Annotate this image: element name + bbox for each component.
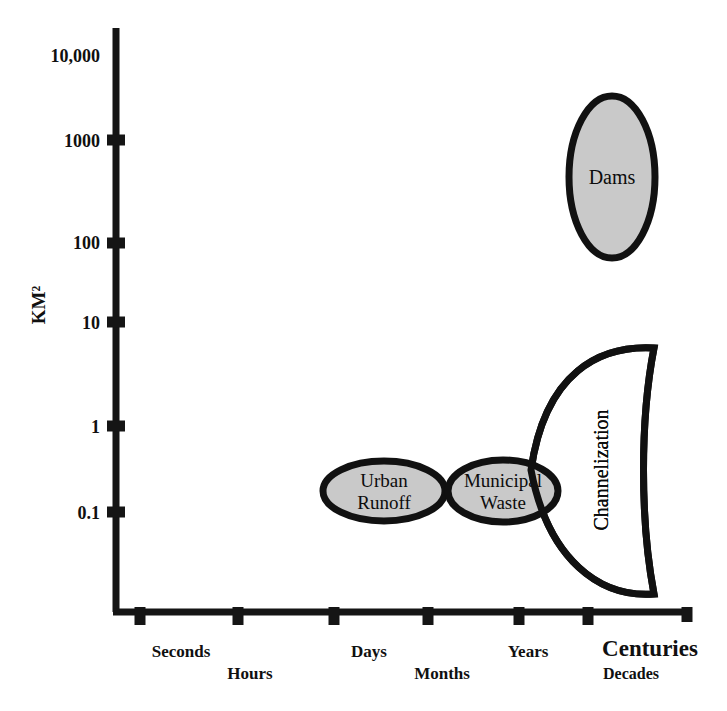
y-tick-label-100: 100 xyxy=(73,233,100,253)
chart-figure: 10,000 1000 100 10 1 0.1 KM² Seconds Hou… xyxy=(0,0,727,711)
y-axis-tick-labels: 10,000 1000 100 10 1 0.1 xyxy=(51,46,101,523)
dams-label: Dams xyxy=(589,166,636,188)
x-tick-label-decades: Decades xyxy=(603,665,659,682)
y-axis-title: KM² xyxy=(28,285,49,324)
region-urban-runoff: Urban Runoff xyxy=(323,461,445,521)
x-tick-label-days: Days xyxy=(351,642,387,661)
urban-runoff-label-line1: Urban xyxy=(360,470,408,491)
chart-canvas: 10,000 1000 100 10 1 0.1 KM² Seconds Hou… xyxy=(0,0,727,711)
y-tick-label-10: 10 xyxy=(82,313,100,333)
municipal-waste-label-line2: Waste xyxy=(480,492,526,513)
y-tick-label-0.1: 0.1 xyxy=(78,503,101,523)
x-tick-label-hours: Hours xyxy=(227,664,273,683)
y-tick-label-1000: 1000 xyxy=(64,131,100,151)
y-axis-title-text: KM² xyxy=(28,285,49,324)
channelization-label-overlay: Channelization xyxy=(590,409,612,530)
x-tick-label-years: Years xyxy=(508,642,549,661)
x-tick-label-centuries: Centuries xyxy=(602,636,698,661)
urban-runoff-label-line2: Runoff xyxy=(357,492,411,513)
x-tick-label-months: Months xyxy=(414,664,470,683)
region-dams: Dams xyxy=(569,96,655,258)
x-axis-tick-labels: Seconds Hours Days Months Years Decades … xyxy=(152,636,698,683)
x-tick-label-seconds: Seconds xyxy=(152,642,211,661)
y-tick-label-10000: 10,000 xyxy=(51,46,101,66)
y-tick-label-1: 1 xyxy=(91,417,100,437)
